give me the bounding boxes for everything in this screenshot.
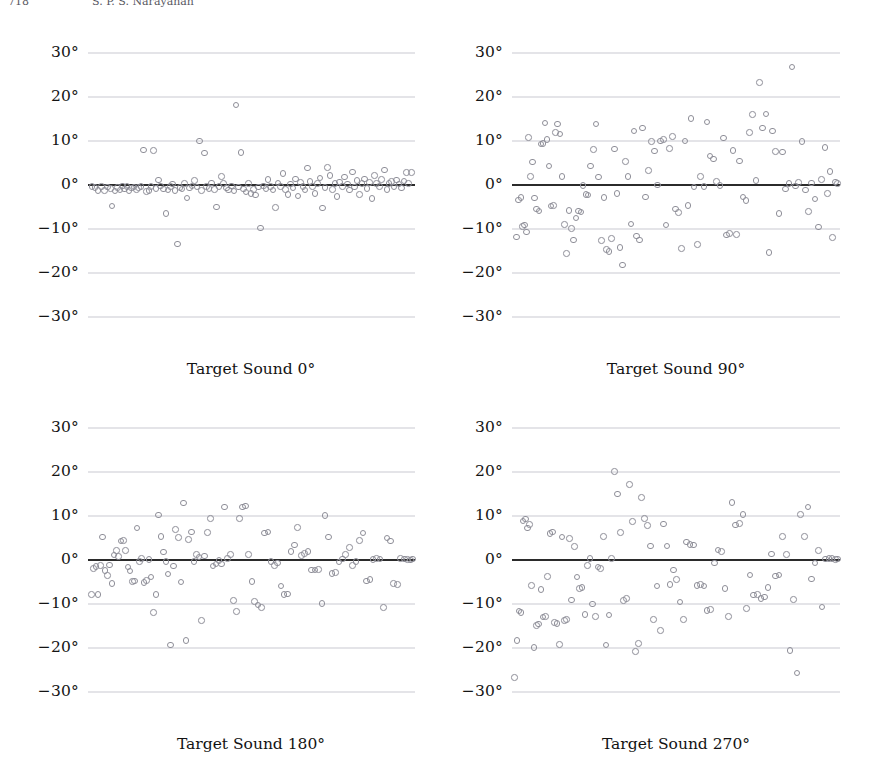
data-point [351,184,358,191]
data-point [233,102,240,109]
data-point [319,600,326,607]
data-point [165,571,172,578]
data-point [140,147,147,154]
data-point [538,586,545,593]
data-point [329,186,336,193]
data-point [790,596,797,603]
gridline-20 [88,472,415,473]
gridline--30 [88,316,415,317]
data-point [697,173,704,180]
data-point [568,225,575,232]
data-point [680,616,687,623]
data-point [356,191,363,198]
data-point [213,204,220,211]
gridline--10 [512,603,840,604]
data-point [619,262,626,269]
data-point [597,565,604,572]
data-point [542,120,549,127]
data-point [122,547,129,554]
data-point [531,644,538,651]
data-point [167,642,174,649]
y-axis-tick-label: 10° [475,508,512,524]
data-point [694,241,701,248]
data-point [783,551,790,558]
data-point [109,580,116,587]
data-point [776,210,783,217]
data-point [660,521,667,528]
data-point [305,548,312,555]
gridline--20 [88,272,415,273]
data-point [805,208,812,215]
scatter-panel-1: 30°20°10°0°−10°−20°−30° [512,40,840,330]
data-point [802,187,809,194]
data-point [685,202,692,209]
panel-caption-0: Target Sound 0° [101,362,401,378]
gridline--20 [512,272,840,273]
data-point [648,138,655,145]
data-point [518,194,525,201]
data-point [663,222,670,229]
data-point [163,558,170,565]
gridline-10 [512,516,840,517]
data-point [582,611,589,618]
y-axis-tick-label: 0° [61,552,88,568]
data-point [559,534,566,541]
data-point [536,208,543,215]
y-axis-tick-label: 10° [475,133,512,149]
data-point [743,197,750,204]
data-point [769,128,776,135]
data-point [409,556,416,563]
data-point [563,616,570,623]
data-point [598,237,605,244]
data-point [230,597,237,604]
gridline-20 [88,97,415,98]
data-point [574,574,581,581]
data-point [364,185,371,192]
data-point [578,209,585,216]
data-point [252,192,259,199]
data-point [704,119,711,126]
panel-caption-1: Target Sound 90° [526,362,826,378]
data-point [163,210,170,217]
data-point [233,608,240,615]
running-head: S. P. S. Narayanan [92,0,194,8]
data-point [245,551,252,558]
data-point [711,560,718,567]
data-point [523,229,530,236]
data-point [756,79,763,86]
data-point [172,526,179,533]
data-point [319,205,326,212]
data-point [787,647,794,654]
data-point [677,599,684,606]
data-point [812,560,819,567]
data-point [617,529,624,536]
data-point [322,512,329,519]
data-point [134,525,141,532]
data-point [146,556,153,563]
data-point [526,521,533,528]
data-point [819,604,826,611]
data-point [221,504,228,511]
data-point [718,548,725,555]
y-axis-tick-label: −10° [462,221,512,237]
y-axis-tick-label: 20° [475,464,512,480]
data-point [544,573,551,580]
data-point [645,167,652,174]
data-point [191,558,198,565]
data-point [525,134,532,141]
y-axis-tick-label: −10° [462,596,512,612]
data-point [527,173,534,180]
data-point [725,613,732,620]
data-point [629,518,636,525]
data-point [278,583,285,590]
data-point [717,182,724,189]
gridline-10 [512,141,840,142]
data-point [302,187,309,194]
data-point [815,547,822,554]
data-point [332,569,339,576]
data-point [590,146,597,153]
y-axis-tick-label: 10° [51,133,88,149]
page-number: 718 [8,0,29,8]
data-point [518,609,525,616]
data-point [550,202,557,209]
